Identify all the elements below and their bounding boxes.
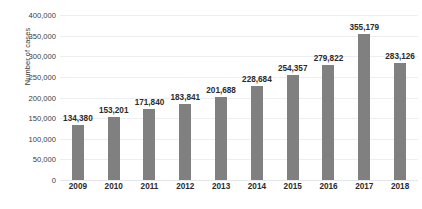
bar[interactable]	[358, 34, 370, 181]
x-axis-tick-label: 2010	[105, 182, 123, 191]
plot-area: 134,380153,201171,840183,841201,688228,6…	[60, 15, 418, 180]
bar-value-label: 153,201	[99, 106, 129, 115]
bar[interactable]	[322, 65, 334, 180]
bar[interactable]	[108, 117, 120, 180]
axis-baseline	[60, 180, 418, 181]
x-axis-tick-label: 2011	[141, 182, 159, 191]
y-axis-tick-label: 150,000	[12, 114, 56, 123]
bar[interactable]	[179, 104, 191, 180]
bar[interactable]	[251, 86, 263, 180]
y-axis-tick-label: 200,000	[12, 93, 56, 102]
x-axis-tick-label: 2016	[319, 182, 337, 191]
y-axis-tick-label: 300,000	[12, 52, 56, 61]
bar-group: 201,688	[203, 15, 239, 180]
y-axis-tick-labels: 050,000100,000150,000200,000250,000300,0…	[12, 0, 56, 209]
bar-value-label: 183,841	[170, 93, 200, 102]
bar-group: 279,822	[311, 15, 347, 180]
bar-group: 254,357	[275, 15, 311, 180]
y-axis-tick-label: 100,000	[12, 134, 56, 143]
y-axis-tick-label: 0	[12, 176, 56, 185]
bar-value-label: 171,840	[135, 98, 165, 107]
bar-group: 171,840	[132, 15, 168, 180]
bar[interactable]	[143, 109, 155, 180]
bar-value-label: 134,380	[63, 114, 93, 123]
bar-group: 153,201	[96, 15, 132, 180]
bar-group: 355,179	[346, 15, 382, 180]
x-axis-tick-label: 2015	[284, 182, 302, 191]
x-axis-tick-label: 2017	[355, 182, 373, 191]
x-axis-tick-label: 2018	[391, 182, 409, 191]
x-axis-tick-label: 2013	[212, 182, 230, 191]
bar-group: 283,126	[382, 15, 418, 180]
bar-value-label: 228,684	[242, 75, 272, 84]
y-axis-tick-label: 350,000	[12, 31, 56, 40]
bar-group: 134,380	[60, 15, 96, 180]
y-axis-tick-label: 250,000	[12, 72, 56, 81]
bar[interactable]	[215, 97, 227, 180]
bar-group: 228,684	[239, 15, 275, 180]
bar-value-label: 355,179	[349, 23, 379, 32]
bar[interactable]	[394, 63, 406, 180]
y-axis-tick-label: 50,000	[12, 155, 56, 164]
bar[interactable]	[72, 125, 84, 180]
bar-group: 183,841	[167, 15, 203, 180]
bar[interactable]	[287, 75, 299, 180]
x-axis-tick-label: 2009	[69, 182, 87, 191]
x-axis-tick-labels: 2009201020112012201320142015201620172018	[60, 182, 418, 198]
bar-chart: Number of cases 050,000100,000150,000200…	[0, 0, 422, 209]
bar-value-label: 283,126	[385, 52, 415, 61]
x-axis-tick-label: 2012	[176, 182, 194, 191]
y-axis-tick-label: 400,000	[12, 11, 56, 20]
bar-value-label: 201,688	[206, 86, 236, 95]
x-axis-tick-label: 2014	[248, 182, 266, 191]
bars-layer: 134,380153,201171,840183,841201,688228,6…	[60, 15, 418, 180]
bar-value-label: 279,822	[314, 54, 344, 63]
bar-value-label: 254,357	[278, 64, 308, 73]
